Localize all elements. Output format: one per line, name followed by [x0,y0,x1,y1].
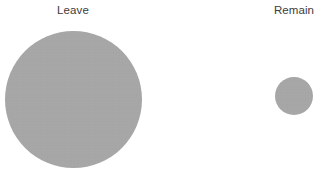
bubble-circle-leave [5,31,142,168]
bubble-label-remain: Remain [274,4,314,17]
bubble-label-leave: Leave [57,4,89,17]
bubble-group-leave: Leave [0,0,147,172]
bubble-circle-remain [275,77,313,115]
bubble-group-remain: Remain [240,0,329,172]
bubble-chart: Leave Remain [0,0,329,172]
